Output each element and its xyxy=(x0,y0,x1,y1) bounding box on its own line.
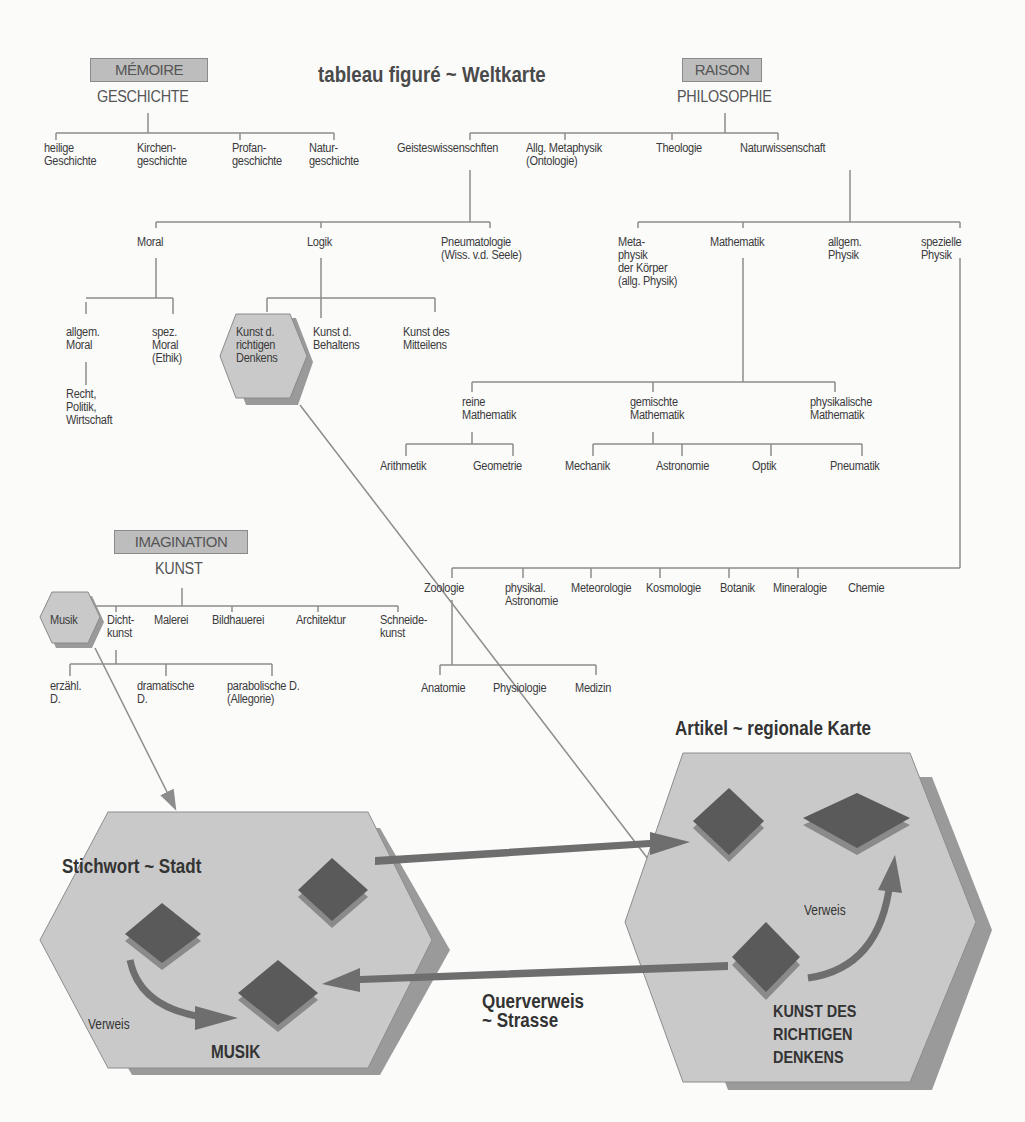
right-verweis-label: Verweis xyxy=(804,902,846,918)
node-optik: Optik xyxy=(752,460,776,473)
domain-geschichte: GESCHICHTE xyxy=(97,88,189,106)
node-mathematik: Mathematik xyxy=(710,236,764,249)
node-spez-moral: spez. Moral (Ethik) xyxy=(152,326,182,365)
node-geometrie: Geometrie xyxy=(473,460,522,473)
node-gemischte-mathematik: gemischte Mathematik xyxy=(630,396,684,422)
querverweis-label: Querverweis ~ Strasse xyxy=(482,992,584,1030)
domain-philosophie: PHILOSOPHIE xyxy=(677,88,772,106)
node-geisteswissenschaften: Geisteswissenschften xyxy=(397,142,498,155)
artikel-heading: Artikel ~ regionale Karte xyxy=(675,718,871,739)
node-parabolische-d: parabolische D. (Allegorie) xyxy=(227,680,299,706)
kunst-richtigen-denkens-hex-label: KUNST DES RICHTIGEN DENKENS xyxy=(773,1000,856,1069)
node-theologie: Theologie xyxy=(656,142,702,155)
node-kirchengeschichte: Kirchen- geschichte xyxy=(137,142,187,168)
node-chemie: Chemie xyxy=(848,582,884,595)
node-physikalische-mathematik: physikalische Mathematik xyxy=(810,396,872,422)
node-profangeschichte: Profan- geschichte xyxy=(232,142,282,168)
node-malerei: Malerei xyxy=(154,614,188,627)
node-schneidekunst: Schneide- kunst xyxy=(380,614,427,640)
node-allgem-moral: allgem. Moral xyxy=(66,326,100,352)
faculty-imagination: IMAGINATION xyxy=(114,530,248,554)
node-spezielle-physik: spezielle Physik xyxy=(921,236,961,262)
node-moral: Moral xyxy=(137,236,163,249)
node-pneumatik: Pneumatik xyxy=(830,460,880,473)
diagram-title: tableau figuré ~ Weltkarte xyxy=(318,62,546,88)
node-physiologie: Physiologie xyxy=(493,682,546,695)
node-metaphysik-koerper: Meta- physik der Körper (allg. Physik) xyxy=(618,236,677,288)
node-kunst-behaltens: Kunst d. Behaltens xyxy=(313,326,360,352)
node-bildhauerei: Bildhauerei xyxy=(212,614,264,627)
node-reine-mathematik: reine Mathematik xyxy=(462,396,516,422)
node-arithmetik: Arithmetik xyxy=(380,460,426,473)
stichwort-heading: Stichwort ~ Stadt xyxy=(62,856,201,877)
node-medizin: Medizin xyxy=(575,682,611,695)
diagram-canvas xyxy=(0,0,1025,1122)
node-botanik: Botanik xyxy=(720,582,755,595)
faculty-memoire: MÉMOIRE xyxy=(90,58,208,82)
node-kosmologie: Kosmologie xyxy=(646,582,701,595)
left-verweis-label: Verweis xyxy=(88,1016,130,1032)
node-erzaehl-d: erzähl. D. xyxy=(50,680,81,706)
node-kunst-mitteilens: Kunst des Mitteilens xyxy=(403,326,450,352)
node-dramatische-d: dramatische D. xyxy=(137,680,194,706)
node-naturgeschichte: Natur- geschichte xyxy=(309,142,359,168)
stichwort-hex xyxy=(40,812,450,1075)
node-anatomie: Anatomie xyxy=(421,682,465,695)
node-architektur: Architektur xyxy=(296,614,346,627)
node-physikal-astronomie: physikal. Astronomie xyxy=(505,582,558,608)
node-dichtkunst: Dicht- kunst xyxy=(107,614,134,640)
node-astronomie: Astronomie xyxy=(656,460,709,473)
node-zoologie: Zoologie xyxy=(424,582,464,595)
node-naturwissenschaft: Naturwissenschaft xyxy=(740,142,825,155)
musik-hex-label: MUSIK xyxy=(211,1042,260,1063)
node-meteorologie: Meteorologie xyxy=(571,582,631,595)
node-heilige-geschichte: heilige Geschichte xyxy=(44,142,96,168)
node-allgem-physik: allgem. Physik xyxy=(828,236,862,262)
node-pneumatologie: Pneumatologie (Wiss. v.d. Seele) xyxy=(441,236,522,262)
faculty-raison: RAISON xyxy=(682,58,762,82)
domain-kunst: KUNST xyxy=(155,560,202,578)
node-recht-politik: Recht, Politik, Wirtschaft xyxy=(66,388,112,427)
node-mechanik: Mechanik xyxy=(565,460,610,473)
node-logik: Logik xyxy=(307,236,332,249)
node-mineralogie: Mineralogie xyxy=(773,582,827,595)
node-allg-metaphysik: Allg. Metaphysik (Ontologie) xyxy=(526,142,602,168)
node-musik: Musik xyxy=(50,614,77,627)
node-kunst-richtigen-denkens: Kunst d. richtigen Denkens xyxy=(236,326,278,365)
